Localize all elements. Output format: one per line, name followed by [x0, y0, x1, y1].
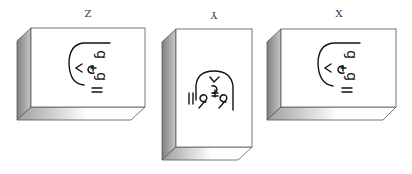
box-y-front-face: [176, 29, 252, 147]
box-y: [162, 29, 252, 160]
diagram-stage: Z Y X ɓ ɓ: [0, 0, 412, 174]
box-x-side-face: [267, 29, 281, 120]
box-x: ɓ ɓ: [267, 29, 396, 120]
box-x-bottom-face: [267, 107, 396, 120]
box-z: ɓ ɓ: [17, 28, 145, 120]
box-z-side-face: [17, 28, 31, 120]
box-y-side-face: [162, 29, 176, 160]
svg-text:ɓ: ɓ: [92, 72, 108, 81]
boxes-svg: ɓ ɓ: [0, 0, 412, 174]
box-y-bottom-face: [162, 147, 252, 160]
svg-text:ɓ: ɓ: [92, 50, 108, 59]
svg-text:ɓ: ɓ: [342, 72, 358, 81]
box-z-bottom-face: [17, 107, 145, 120]
svg-text:ɓ: ɓ: [342, 50, 358, 59]
